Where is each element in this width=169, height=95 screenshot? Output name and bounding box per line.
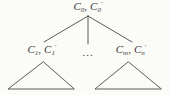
- edge-root-to-right-child: [88, 16, 132, 42]
- middle-ellipsis: ...: [82, 47, 93, 58]
- root-prime: ′: [101, 0, 103, 8]
- right-child-prime: ′: [145, 43, 147, 51]
- right-child-var-2: C: [134, 43, 141, 55]
- root-node-label: C0,C0′: [74, 1, 103, 12]
- left-child-var-2: C: [44, 43, 51, 55]
- root-separator: ,: [84, 0, 87, 12]
- left-subtree-triangle: [8, 62, 74, 89]
- root-var-2: C: [90, 0, 97, 12]
- edge-root-to-left-child: [44, 16, 88, 42]
- tree-diagram: C0,C0′ C1,C1′ ... Cm,Cn′: [0, 0, 169, 95]
- right-child-node-label: Cm,Cn′: [116, 44, 147, 55]
- right-child-separator: ,: [128, 43, 131, 55]
- left-child-separator: ,: [38, 43, 41, 55]
- left-child-node-label: C1,C1′: [28, 44, 57, 55]
- right-subtree-triangle: [95, 62, 161, 89]
- left-child-prime: ′: [55, 43, 57, 51]
